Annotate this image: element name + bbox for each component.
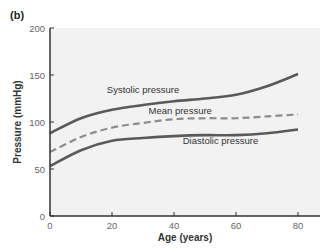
x-tick-label: 80	[293, 220, 304, 231]
line-chart: 050100150200020406080 Systolic pressureM…	[0, 0, 335, 252]
y-tick-label: 0	[40, 211, 45, 222]
x-tick-label: 20	[107, 220, 118, 231]
x-axis-title: Age (years)	[158, 232, 212, 243]
x-tick-label: 60	[231, 220, 242, 231]
plot-area	[50, 28, 320, 216]
y-axis-title: Pressure (mmHg)	[12, 80, 23, 163]
y-tick-label: 100	[29, 117, 45, 128]
y-tick-label: 200	[29, 23, 45, 34]
y-tick-label: 150	[29, 70, 45, 81]
series-label: Mean pressure	[149, 105, 212, 116]
x-tick-label: 40	[169, 220, 180, 231]
series-label: Diastolic pressure	[183, 135, 259, 146]
x-tick-label: 0	[47, 220, 52, 231]
y-tick-label: 50	[34, 164, 45, 175]
series-label: Systolic pressure	[107, 84, 179, 95]
